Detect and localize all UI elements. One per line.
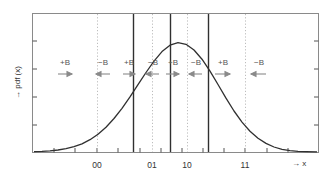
bias-label-1: +B — [48, 59, 82, 67]
bias-label-text: +B — [48, 59, 82, 67]
figure-canvas: +B −B +B −B +B −B +B −B 00 01 10 11 → x … — [0, 0, 331, 184]
arrow-left-4 — [251, 72, 266, 77]
arrow-left-1 — [96, 72, 110, 77]
bin-center-lines — [98, 14, 246, 152]
x-tick-label-01: 01 — [142, 160, 162, 170]
bias-label-7: +B — [206, 59, 240, 67]
bias-label-text: +B — [206, 59, 240, 67]
arrow-right-4 — [215, 72, 230, 77]
plot-frame — [33, 14, 319, 153]
arrow-left-3 — [189, 72, 202, 77]
y-axis-label: → pdf (x) — [13, 53, 22, 113]
x-tick-label-11: 11 — [235, 160, 255, 170]
arrow-right-3 — [166, 72, 179, 77]
bias-arrows — [58, 72, 266, 77]
x-tick-label-00: 00 — [87, 160, 107, 170]
plot-svg — [0, 0, 331, 184]
arrow-right-1 — [58, 72, 72, 77]
x-tick-label-10: 10 — [177, 160, 197, 170]
y-axis-ticks — [33, 41, 319, 125]
x-axis-label: → x — [292, 159, 306, 168]
bias-label-text: −B — [242, 59, 276, 67]
bias-label-8: −B — [242, 59, 276, 67]
threshold-lines — [134, 14, 209, 152]
